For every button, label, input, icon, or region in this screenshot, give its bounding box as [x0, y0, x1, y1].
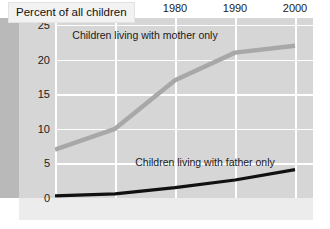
series-line — [55, 170, 295, 196]
series-lines — [55, 18, 313, 198]
series-label: Children living with father only — [135, 157, 274, 168]
y-tick-label: 20 — [0, 54, 50, 65]
x-axis-label-strip — [19, 198, 313, 220]
series-label: Children living with mother only — [72, 30, 217, 41]
x-tick-label: 1980 — [163, 3, 187, 14]
y-tick-label: 10 — [0, 123, 50, 134]
y-axis-label-column — [19, 18, 55, 198]
x-tick-label: 1990 — [223, 3, 247, 14]
chart-figure: 0510152025 19601970198019902000 Children… — [0, 0, 330, 229]
x-tick-label: 2000 — [283, 3, 307, 14]
left-margin-band — [0, 18, 19, 198]
plot-area — [55, 18, 313, 198]
series-line — [55, 46, 295, 150]
y-tick-label: 5 — [0, 158, 50, 169]
y-tick-label: 15 — [0, 89, 50, 100]
y-tick-label: 0 — [0, 193, 50, 204]
chart-title: Percent of all children — [8, 2, 135, 23]
